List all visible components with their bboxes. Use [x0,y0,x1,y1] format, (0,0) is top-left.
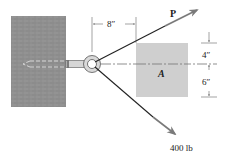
dimension-right [201,32,217,97]
force-400lb-label: 400 lb [170,143,193,153]
dimension-4in-label: 4″ [202,50,211,60]
force-p-label: P [170,8,176,19]
block-label: A [157,68,165,79]
bolt-shank [66,61,85,68]
wall [11,16,66,107]
eyebolt-diagram: A P 400 lb 8″ 4″ 6″ [0,0,226,162]
dimension-8in-label: 8″ [107,19,116,29]
dimension-6in-label: 6″ [202,77,211,87]
